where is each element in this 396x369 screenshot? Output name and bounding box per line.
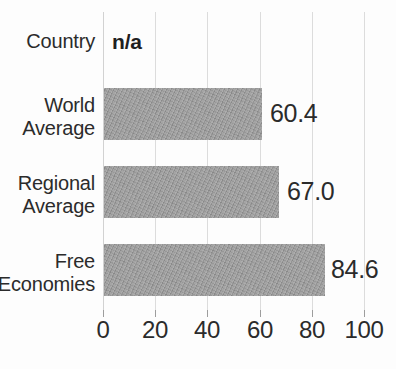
bar-regional-average (104, 166, 279, 218)
chart-row-free-economies: Free Economies 84.6 (0, 244, 396, 306)
category-label: Free Economies (0, 250, 95, 296)
value-label-na: n/a (112, 30, 142, 54)
value-label: 60.4 (270, 98, 317, 128)
value-label: 84.6 (331, 254, 378, 284)
bar-world-average (104, 88, 262, 140)
tick-label-100: 100 (345, 316, 384, 344)
chart-row-world-average: World Average 60.4 (0, 88, 396, 150)
tick-label-80: 80 (299, 316, 325, 344)
tick-label-60: 60 (247, 316, 273, 344)
category-label: World Average (0, 94, 95, 140)
tick-label-40: 40 (194, 316, 220, 344)
chart-row-regional-average: Regional Average 67.0 (0, 166, 396, 228)
bar-chart: Country n/a World Average 60.4 Regional … (0, 0, 396, 369)
tick-label-20: 20 (142, 316, 168, 344)
chart-row-country: Country n/a (0, 18, 396, 80)
tick-label-0: 0 (97, 316, 110, 344)
category-label: Regional Average (0, 172, 95, 218)
category-label: Country (0, 30, 95, 53)
bar-free-economies (104, 244, 325, 296)
value-label: 67.0 (287, 176, 334, 206)
